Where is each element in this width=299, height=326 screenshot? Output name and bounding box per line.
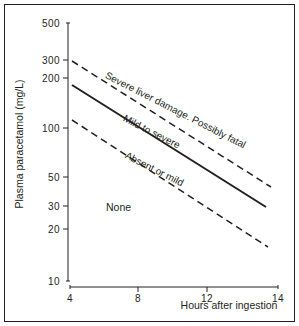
- x-axis-spine: [70, 285, 278, 289]
- y-axis-title: Plasma paracetamol (mg/L): [13, 64, 25, 224]
- y-axis-spine: [66, 23, 70, 281]
- x-tick-label-8: 8: [127, 293, 149, 304]
- y-tick-label-20: 20: [28, 224, 60, 235]
- y-tick-label-30: 30: [28, 201, 60, 212]
- y-tick-label-100: 100: [28, 123, 60, 134]
- x-tick-label-4: 4: [59, 293, 81, 304]
- x-axis-ticks: [138, 287, 207, 292]
- y-axis-ticks: [63, 60, 68, 229]
- y-tick-label-300: 300: [28, 55, 60, 66]
- y-tick-label-10: 10: [28, 276, 60, 287]
- annotation-none: None: [106, 201, 131, 213]
- y-tick-label-500: 500: [28, 18, 60, 29]
- paracetamol-nomogram-figure: 500 300 200 100 50 30 20 10 4 8 12 14 Pl…: [0, 0, 299, 326]
- y-tick-label-200: 200: [28, 73, 60, 84]
- y-tick-label-50: 50: [28, 172, 60, 183]
- series-line-upper-dashed: [72, 61, 271, 187]
- x-axis-title: Hours after ingestion: [170, 299, 288, 311]
